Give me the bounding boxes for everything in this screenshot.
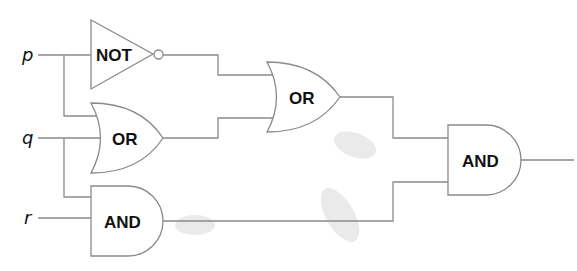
input-label-q: q: [22, 127, 33, 148]
or-gate-1-label: OR: [112, 130, 138, 149]
wire-or2-to-and2: [340, 97, 448, 138]
and-gate-2-label: AND: [462, 152, 499, 171]
scan-smudges: [175, 126, 380, 248]
not-gate-label: NOT: [96, 46, 133, 65]
wire-or1-to-or2: [163, 118, 274, 138]
not-gate: NOT: [91, 20, 163, 89]
or-gate-1: OR: [91, 103, 163, 173]
and-gate-1-label: AND: [104, 213, 141, 232]
wire-not-to-or2: [163, 55, 274, 75]
wire-q-to-and: [64, 138, 91, 197]
logic-circuit-diagram: p q r NOT OR AND: [0, 0, 577, 271]
input-label-r: r: [24, 207, 33, 228]
and-gate-1: AND: [91, 186, 163, 256]
not-gate-bubble: [154, 50, 163, 59]
or-gate-2-label: OR: [289, 89, 315, 108]
or-gate-2: OR: [267, 62, 340, 132]
wire-and1-to-and2: [163, 182, 448, 221]
and-gate-2: AND: [448, 125, 521, 195]
input-label-p: p: [21, 44, 33, 65]
